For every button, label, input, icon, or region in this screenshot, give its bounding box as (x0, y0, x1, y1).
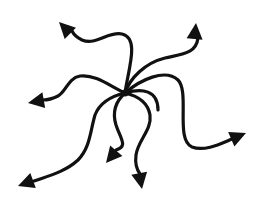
radiating-arrows-diagram: Radiating arrows (0, 0, 258, 206)
center-hub (122, 90, 129, 97)
